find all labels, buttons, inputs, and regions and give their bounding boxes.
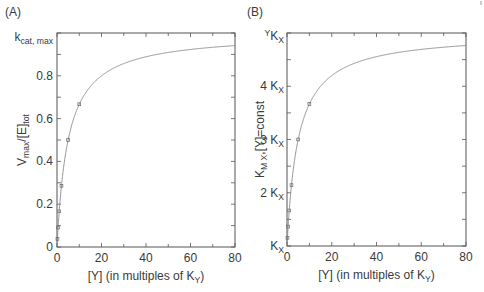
- y-tick-label: 0.4: [36, 154, 53, 168]
- x-tick-label: 80: [228, 251, 242, 265]
- y-tick-label: 0.6: [36, 112, 53, 126]
- x-tick-label: 60: [184, 251, 198, 265]
- fit-curve: [57, 46, 235, 247]
- x-tick-label: 80: [459, 250, 473, 264]
- x-tick-label: 40: [370, 250, 384, 264]
- y-tick-label: 0.8: [36, 69, 53, 83]
- y-top-label: YKX: [264, 28, 284, 45]
- panel-b: (B)020406080KX2 KX3 KX4 KXYKXKM X,[Y]=co…: [247, 5, 473, 284]
- y-axis-label: Vmax/[E]tot: [15, 113, 31, 166]
- y-tick-label: 0: [46, 240, 53, 254]
- panel-label: (B): [247, 5, 263, 19]
- panel-a: (A)02040608000.20.40.60.8kcat, maxVmax/[…: [5, 5, 242, 285]
- y-top-label: kcat, max: [14, 30, 53, 46]
- y-tick-label: 2 KX: [260, 186, 284, 202]
- y-tick-label: KX: [270, 239, 284, 255]
- x-tick-label: 20: [325, 250, 339, 264]
- figure: (A)02040608000.20.40.60.8kcat, maxVmax/[…: [0, 0, 484, 292]
- y-tick-label: 4 KX: [260, 79, 284, 95]
- x-tick-label: 0: [284, 250, 291, 264]
- x-axis-label: [Y] (in multiples of KY): [318, 268, 434, 284]
- y-tick-label: 0.2: [36, 197, 53, 211]
- x-tick-label: 40: [139, 251, 153, 265]
- panel-label: (A): [5, 5, 21, 19]
- fit-curve: [287, 46, 466, 246]
- x-tick-label: 0: [54, 251, 61, 265]
- y-axis-label: KM X,[Y]=const: [253, 100, 269, 178]
- x-tick-label: 60: [415, 250, 429, 264]
- plot-frame: [287, 33, 466, 246]
- x-axis-label: [Y] (in multiples of KY): [88, 269, 204, 285]
- x-tick-label: 20: [95, 251, 109, 265]
- plot-frame: [57, 33, 235, 247]
